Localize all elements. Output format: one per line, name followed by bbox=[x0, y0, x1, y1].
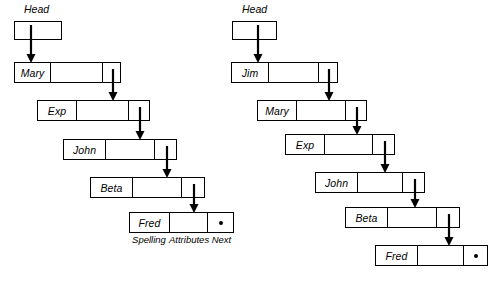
spelling-cell: Fred bbox=[130, 213, 170, 232]
attributes-cell bbox=[358, 173, 403, 192]
left-list-pointer-arrow-exp bbox=[133, 107, 147, 140]
right-list-head-label: Head bbox=[242, 3, 267, 15]
attributes-cell bbox=[170, 213, 208, 232]
left-list-pointer-arrow-mary bbox=[106, 69, 120, 101]
left-list-head-box bbox=[14, 21, 62, 40]
spelling-cell: Mary bbox=[258, 101, 297, 120]
spelling-cell: Exp bbox=[38, 101, 77, 120]
right-list-pointer-arrow-beta bbox=[442, 214, 456, 246]
linked-list-diagram: HeadMaryExpJohnBetaFredSpellingAttribute… bbox=[0, 0, 495, 283]
left-list-pointer-arrow-john bbox=[160, 146, 174, 178]
spelling-cell: Beta bbox=[91, 178, 133, 197]
spelling-cell: John bbox=[64, 140, 106, 159]
left-list-pointer-arrow-beta bbox=[187, 184, 201, 213]
left-list-head-pointer-arrow bbox=[24, 25, 38, 63]
right-list-node-fred: Fred bbox=[375, 245, 488, 266]
right-list-pointer-arrow-jim bbox=[322, 69, 336, 101]
attributes-cell bbox=[133, 178, 182, 197]
attributes-cell bbox=[388, 208, 437, 227]
spelling-cell: Exp bbox=[286, 135, 325, 154]
left-list-head-label: Head bbox=[24, 3, 49, 15]
spelling-cell: Jim bbox=[232, 63, 269, 82]
right-list-pointer-arrow-john bbox=[408, 179, 422, 208]
attributes-cell bbox=[51, 63, 103, 82]
attributes-cell bbox=[418, 246, 464, 265]
next-cell bbox=[208, 213, 233, 232]
attributes-cell bbox=[297, 101, 346, 120]
attributes-cell bbox=[106, 140, 155, 159]
left-list-node-fred: Fred bbox=[129, 212, 234, 233]
legend-spelling: Spelling bbox=[129, 234, 169, 245]
attributes-cell bbox=[77, 101, 129, 120]
right-list-pointer-arrow-mary bbox=[350, 107, 364, 135]
attributes-cell bbox=[269, 63, 319, 82]
spelling-cell: Beta bbox=[346, 208, 388, 227]
spelling-cell: Fred bbox=[376, 246, 418, 265]
right-list-head-pointer-arrow bbox=[251, 25, 265, 63]
next-cell bbox=[464, 246, 487, 265]
spelling-cell: Mary bbox=[15, 63, 51, 82]
null-pointer-dot bbox=[219, 221, 223, 225]
null-pointer-dot bbox=[474, 254, 478, 258]
spelling-cell: John bbox=[316, 173, 358, 192]
legend-attributes: Attributes bbox=[169, 234, 209, 245]
attributes-cell bbox=[325, 135, 373, 154]
right-list-pointer-arrow-exp bbox=[378, 141, 392, 173]
legend-next: Next bbox=[209, 234, 234, 245]
